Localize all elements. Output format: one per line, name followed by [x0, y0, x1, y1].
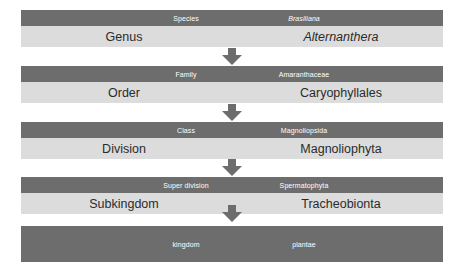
taxon-name: Caryophyllales	[266, 82, 416, 103]
taxonomy-diagram: Species Brasiliana Genus Alternanthera F…	[0, 0, 464, 271]
down-arrow-icon	[221, 159, 243, 177]
rank-label: Order	[49, 82, 199, 103]
taxonomy-header-bar: Super division Spermatophyta	[21, 177, 443, 193]
down-arrow-icon	[221, 205, 243, 223]
taxon-name: plantae	[236, 226, 372, 262]
taxon-name: Tracheobionta	[266, 193, 416, 214]
rank-label: Subkingdom	[49, 193, 199, 214]
rank-label: Division	[49, 138, 199, 159]
taxon-name: Alternanthera	[266, 26, 416, 47]
taxonomy-block: Species Brasiliana Genus Alternanthera	[21, 10, 443, 47]
taxonomy-header-bar: Class Magnoliopsida	[21, 122, 443, 138]
rank-label: Genus	[49, 26, 199, 47]
taxonomy-header-bar: Family Amaranthaceae	[21, 66, 443, 82]
taxonomy-header-bar: Species Brasiliana	[21, 10, 443, 26]
taxon-name: Magnoliopsida	[236, 122, 372, 138]
taxonomy-block: Family Amaranthaceae Order Caryophyllale…	[21, 66, 443, 103]
taxonomy-header-bar: kingdom plantae	[21, 226, 443, 262]
down-arrow-icon	[221, 104, 243, 122]
taxon-name: Magnoliophyta	[266, 138, 416, 159]
taxon-name: Amaranthaceae	[236, 66, 372, 82]
taxonomy-body-bar: Division Magnoliophyta	[21, 138, 443, 159]
taxonomy-block: Class Magnoliopsida Division Magnoliophy…	[21, 122, 443, 159]
down-arrow-icon	[221, 48, 243, 66]
taxonomy-body-bar: Order Caryophyllales	[21, 82, 443, 103]
taxon-name: Spermatophyta	[236, 177, 372, 193]
taxonomy-block: kingdom plantae	[21, 226, 443, 262]
taxonomy-body-bar: Genus Alternanthera	[21, 26, 443, 47]
taxon-name: Brasiliana	[236, 10, 372, 26]
